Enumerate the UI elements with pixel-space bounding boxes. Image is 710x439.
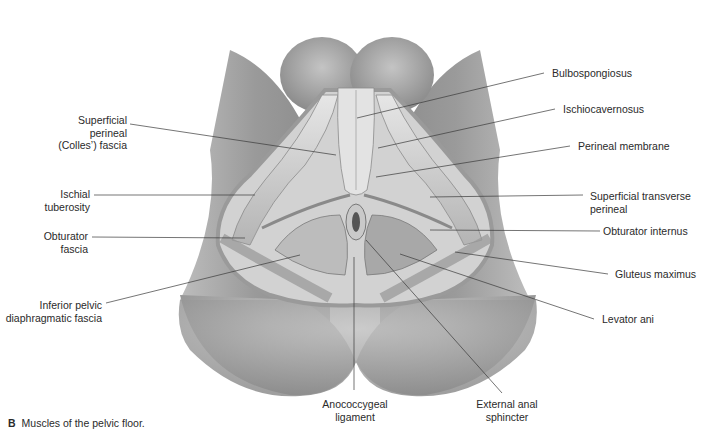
figure-caption: BMuscles of the pelvic floor. — [8, 417, 145, 429]
label-perineal-membrane: Perineal membrane — [578, 140, 670, 153]
label-superficial-transverse-perineal: Superficial transverse perineal — [590, 190, 691, 215]
label-levator-ani: Levator ani — [602, 313, 654, 326]
label-inferior-pelvic-diaphragmatic-fascia: Inferior pelvic diaphragmatic fascia — [0, 299, 102, 324]
pelvic-floor-illustration — [0, 0, 710, 439]
label-superficial-perineal-fascia: Superficial perineal (Colles’) fascia — [52, 114, 127, 152]
label-anococcygeal-ligament: Anococcygeal ligament — [322, 398, 388, 423]
caption-letter: B — [8, 417, 16, 429]
label-obturator-fascia: Obturator fascia — [30, 230, 88, 255]
caption-text: Muscles of the pelvic floor. — [22, 417, 145, 429]
label-ischiocavernosus: Ischiocavernosus — [563, 103, 644, 116]
label-ischial-tuberosity: Ischial tuberosity — [30, 188, 90, 213]
label-bulbospongiosus: Bulbospongiosus — [552, 67, 632, 80]
label-external-anal-sphincter: External anal sphincter — [475, 398, 539, 423]
label-gluteus-maximus: Gluteus maximus — [615, 268, 696, 281]
label-obturator-internus: Obturator internus — [603, 225, 688, 238]
